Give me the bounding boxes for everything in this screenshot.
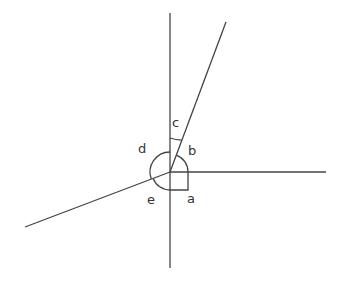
label-e: e <box>147 192 155 207</box>
angle-a-right-angle-marker <box>170 172 188 190</box>
diagonal-ray-upper <box>170 22 226 172</box>
angle-diagram: a b c d e <box>0 0 342 281</box>
angle-d-arc <box>150 152 170 179</box>
label-a: a <box>187 191 195 206</box>
label-b: b <box>188 143 196 158</box>
label-d: d <box>138 141 146 156</box>
angle-e-arc <box>153 178 170 190</box>
angle-c-arc <box>170 138 182 140</box>
angle-b-arc <box>176 155 188 172</box>
label-c: c <box>172 115 179 130</box>
